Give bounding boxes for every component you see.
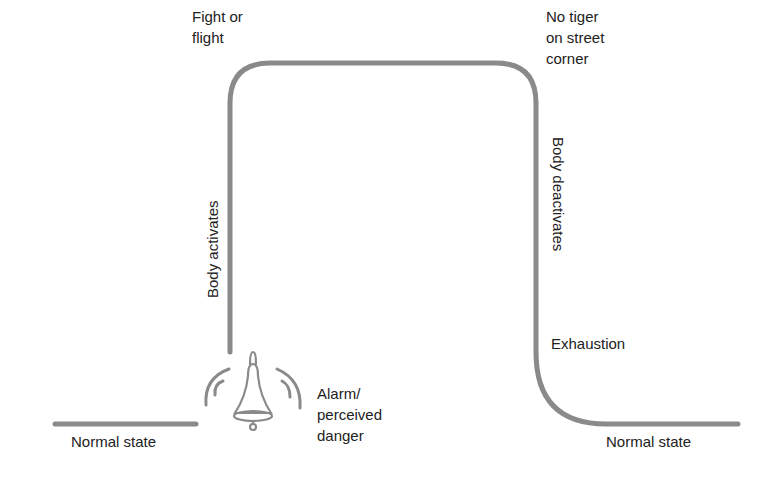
label-line: danger: [317, 425, 382, 446]
label-normal-state-right: Normal state: [606, 431, 691, 452]
label-line: perceived: [317, 404, 382, 425]
label-line: No tiger: [546, 6, 604, 27]
activation-curve: [230, 63, 738, 424]
label-fight-or-flight: Fight or flight: [192, 6, 243, 48]
label-alarm: Alarm/ perceived danger: [317, 383, 382, 446]
label-normal-state-left: Normal state: [71, 431, 156, 452]
label-line: flight: [192, 27, 243, 48]
stress-curve-diagram: [0, 0, 780, 486]
label-body-deactivates: Body deactivates: [548, 137, 569, 251]
label-no-tiger: No tiger on street corner: [546, 6, 604, 69]
label-line: on street: [546, 27, 604, 48]
label-line: Alarm/: [317, 383, 382, 404]
bell-icon: [193, 352, 300, 430]
label-line: corner: [546, 48, 604, 69]
label-exhaustion: Exhaustion: [551, 333, 625, 354]
label-body-activates: Body activates: [202, 200, 223, 298]
label-line: Fight or: [192, 6, 243, 27]
